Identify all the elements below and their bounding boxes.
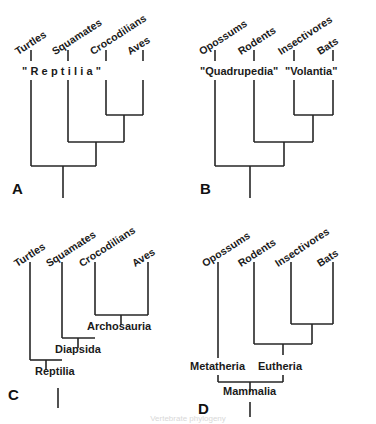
clade-label-diapsida: Diapsida [55,343,101,355]
group-label-volantia: "Volantia" [285,65,337,77]
panel-c-tree [0,212,188,424]
clade-label-eutheria: Eutheria [258,360,302,372]
cladogram-figure: Turtles Squamates Crocodilians Aves "Rep… [0,0,376,424]
clade-label-archosauria: Archosauria [87,320,151,332]
panel-c: Turtles Squamates Crocodilians Aves Arch… [0,212,188,424]
panel-b-tree [188,0,376,212]
panel-letter-c: C [8,386,19,403]
clade-label-reptilia: Reptilia [35,365,75,377]
caption-fragment: Vertebrate phylogeny [0,414,376,424]
panel-letter-a: A [12,180,23,197]
group-label-reptilia: "Reptilia" [22,65,104,77]
clade-label-mammalia: Mammalia [223,385,276,397]
group-label-quadrupedia: "Quadrupedia" [200,65,278,77]
panel-letter-b: B [200,180,211,197]
panel-b: Opossums Rodents Insectivores Bats "Quad… [188,0,376,212]
panel-d-tree [188,212,376,424]
panel-d: Opossums Rodents Insectivores Bats Metat… [188,212,376,424]
panel-a: Turtles Squamates Crocodilians Aves "Rep… [0,0,188,212]
clade-label-metatheria: Metatheria [190,360,245,372]
